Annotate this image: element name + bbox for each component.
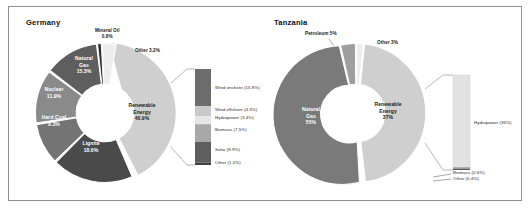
germany-legend-swatch-wind-offshore (195, 106, 211, 116)
panel-germany: Germany (9, 7, 265, 202)
germany-legend-label-wind-onshore: Wind onshore (15.8%) (215, 85, 260, 90)
tanzania-callout-other: Other 3% (377, 40, 398, 46)
germany-legend-swatch-hydropower (195, 116, 211, 124)
figure-root: Germany (0, 0, 530, 211)
germany-legend-swatch-other (195, 163, 211, 165)
germany-label-nuclear: Nuclear 11.9% (34, 86, 74, 99)
tanzania-legend-label-hydropower: Hydropower (36%) (474, 120, 511, 125)
germany-legend-label-hydropower: Hydropower (3.4%) (215, 115, 254, 120)
germany-legend-label-solar: Solar (8.9%) (215, 147, 240, 152)
tanzania-legend-label-biomass: Biomass (0.6%) (453, 170, 485, 175)
germany-legend-swatch-solar (195, 142, 211, 163)
germany-legend-label-biomass: Biomass (7.5%) (215, 127, 247, 132)
germany-legend-label-wind-offshore: Wind offshore (4.3%) (215, 107, 257, 112)
tanzania-label-renewable-energy: Renewable Energy 37% (365, 101, 411, 121)
tanzania-label-natural-gas: Natural Gas 55% (291, 106, 331, 126)
panel-title-germany: Germany (26, 18, 60, 27)
tanzania-legend-label-other: Other (0.4%) (453, 176, 479, 181)
germany-legend-swatch-biomass (195, 124, 211, 142)
germany-legend-swatch-wind-onshore (195, 69, 211, 106)
tanzania-legend-swatch-hydropower (453, 75, 470, 167)
germany-pie-center-hole (89, 97, 122, 130)
germany-legend-label-other: Other (1.0%) (215, 160, 241, 165)
tanzania-legend-swatch-biomass (453, 167, 470, 169)
panel-title-tanzania: Tanzania (274, 18, 308, 27)
germany-label-natural-gas: Natural Gas 15.3% (64, 55, 104, 75)
germany-label-lignite: Lignite 18.6% (71, 140, 111, 153)
germany-legend-bar (195, 69, 211, 165)
germany-label-renewable-energy: Renewable Energy 40.9% (119, 102, 165, 122)
germany-callout-other: Other 3.2% (135, 48, 160, 54)
germany-callout-mineral-oil: Mineral Oil 0.8% (95, 28, 120, 40)
germany-label-hard-coal: Hard Coal 9.3% (32, 114, 76, 127)
tanzania-legend-bar (453, 75, 470, 171)
figure-frame: Germany (8, 6, 522, 201)
panel-tanzania: Tanzania (265, 7, 523, 202)
tanzania-callout-petroleum: Petroleum 5% (305, 31, 337, 37)
